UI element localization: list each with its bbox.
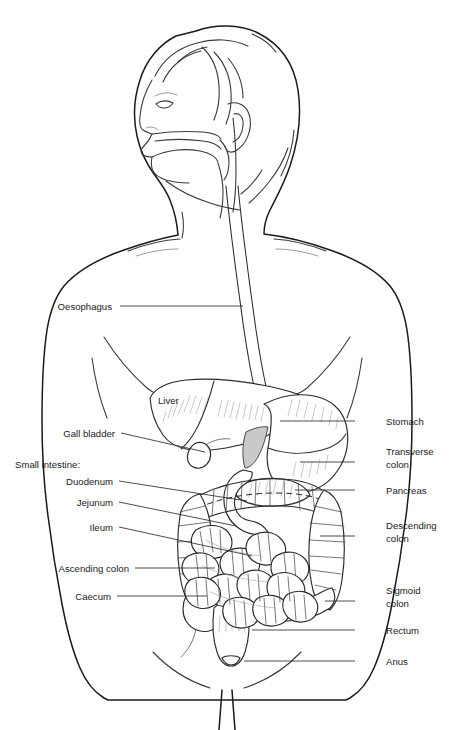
label-transverse-colon-line2: colon — [386, 459, 409, 470]
label-liver: Liver — [158, 395, 180, 406]
label-transverse-colon: Transverse — [386, 446, 434, 457]
label-pancreas: Pancreas — [386, 485, 427, 496]
label-stomach: Stomach — [386, 416, 424, 427]
anatomy-illustration: Oesophagus Liver Gall bladder Small inte… — [0, 0, 455, 730]
label-anus: Anus — [386, 656, 408, 667]
label-ileum: Ileum — [90, 522, 113, 533]
label-sigmoid-colon-line2: colon — [386, 598, 409, 609]
label-sigmoid-colon: Sigmoid — [386, 585, 421, 596]
label-descending-colon: Descending — [386, 520, 437, 531]
label-rectum: Rectum — [386, 625, 419, 636]
digestive-system-diagram: Oesophagus Liver Gall bladder Small inte… — [0, 0, 455, 730]
label-descending-colon-line2: colon — [386, 533, 409, 544]
label-gall-bladder: Gall bladder — [63, 428, 116, 439]
labels-right-group: Stomach Transverse colon Pancreas Descen… — [386, 416, 437, 667]
label-duodenum: Duodenum — [66, 476, 113, 487]
label-caecum: Caecum — [75, 591, 111, 602]
label-oesophagus: Oesophagus — [58, 301, 113, 312]
label-ascending-colon: Ascending colon — [59, 563, 129, 574]
label-jejunum: Jejunum — [77, 497, 113, 508]
label-small-intestine: Small intestine: — [15, 459, 80, 470]
